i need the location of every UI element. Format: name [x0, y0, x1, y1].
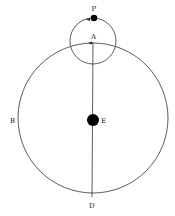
deferent-arrow-icon	[88, 42, 92, 45]
label-a: A	[90, 33, 97, 41]
label-p: P	[92, 5, 97, 13]
label-d: D	[89, 202, 95, 210]
label-b: B	[10, 117, 15, 125]
earth-dot	[87, 114, 99, 126]
label-e: E	[101, 117, 106, 125]
planet-dot	[91, 15, 98, 22]
diagram-canvas: P A B E D	[0, 0, 175, 216]
epicycle-diagram: P A B E D	[0, 0, 175, 216]
